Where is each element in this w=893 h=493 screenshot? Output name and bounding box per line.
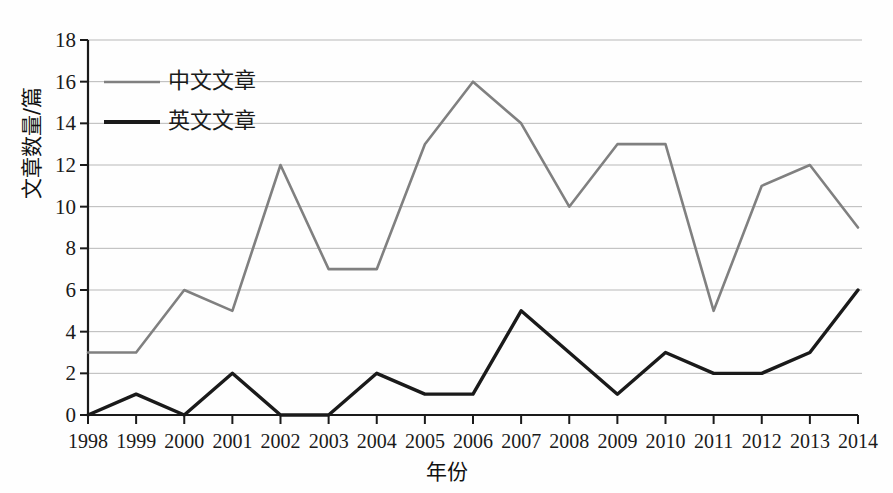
y-tick-label: 18 — [20, 30, 76, 51]
y-tick-label: 2 — [20, 363, 76, 384]
chart-canvas — [0, 0, 893, 493]
series-line-english — [88, 290, 858, 415]
legend-label-english: 英文文章 — [168, 110, 256, 132]
y-tick-label: 16 — [20, 72, 76, 93]
x-axis-label: 年份 — [0, 455, 893, 485]
y-tick-label: 10 — [20, 197, 76, 218]
legend-label-chinese: 中文文章 — [168, 70, 256, 92]
x-axis-ticks — [88, 415, 858, 424]
y-tick-label: 6 — [20, 280, 76, 301]
y-tick-label: 14 — [20, 113, 76, 134]
x-tick-label: 2014 — [828, 431, 888, 451]
y-tick-label: 8 — [20, 238, 76, 259]
y-axis-ticks — [80, 40, 88, 415]
y-tick-label: 4 — [20, 322, 76, 343]
y-tick-label: 12 — [20, 155, 76, 176]
y-tick-label: 0 — [20, 405, 76, 426]
line-chart: 文章数量/篇 年份 中文文章 英文文章 024681012141618 1998… — [0, 0, 893, 493]
